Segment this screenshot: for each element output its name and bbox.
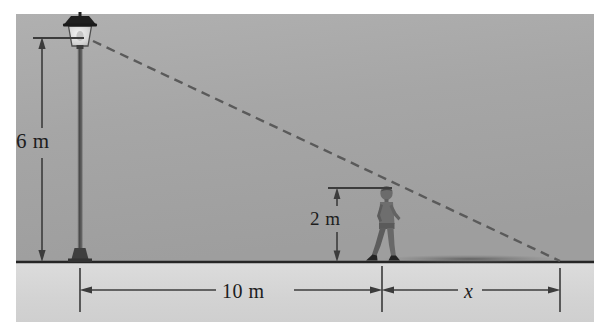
- ground-band-panel: [16, 262, 594, 322]
- lamp-cap-rim: [63, 24, 97, 27]
- person-neck: [385, 199, 389, 203]
- label-person-height: 2 m: [310, 209, 341, 228]
- diagram-canvas: [0, 0, 598, 329]
- label-lamp-height: 6 m: [16, 131, 50, 152]
- ground-shadow: [382, 255, 558, 263]
- label-shadow-length: x: [464, 281, 473, 301]
- lamp-post: [78, 48, 83, 254]
- figure-container: 6 m 2 m 10 m x: [0, 0, 598, 329]
- lamp-base-plate: [68, 259, 92, 263]
- label-lamp-to-person: 10 m: [222, 281, 265, 301]
- lamp-finial: [79, 12, 82, 17]
- lamp-neck: [77, 45, 84, 49]
- lamp-bulb: [76, 31, 83, 41]
- sky-panel: [16, 14, 594, 262]
